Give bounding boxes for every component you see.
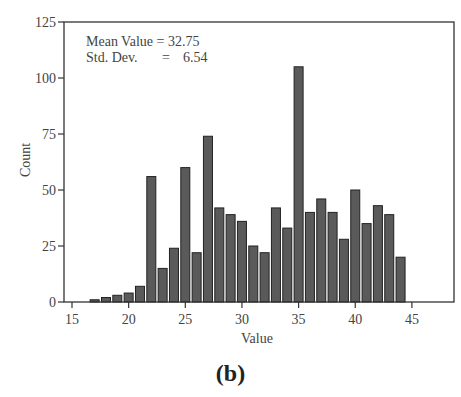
x-tick-label: 45 [405,312,419,327]
figure-caption: (b) [0,360,461,387]
histogram-bar [373,206,382,302]
histogram-bar [147,177,156,302]
y-tick-label: 50 [42,183,56,198]
histogram-bar [135,286,144,302]
std-dev-annotation-label: Std. Dev. [86,50,138,65]
histogram-bar [181,168,190,302]
y-tick-label: 25 [42,239,56,254]
histogram-bar [124,293,133,302]
std-dev-value: 6.54 [183,50,208,65]
x-tick-label: 35 [292,312,306,327]
histogram-bar [385,215,394,302]
histogram-bar [294,67,303,302]
x-tick-label: 25 [178,312,192,327]
y-tick-label: 75 [42,127,56,142]
histogram-bar [339,239,348,302]
histogram-bar [283,228,292,302]
histogram-bar [113,295,122,302]
histogram-chart: 025507510012515202530354045 Mean Value =… [0,0,461,360]
histogram-bar [101,298,110,302]
histogram-bar [249,246,258,302]
y-tick-label: 125 [35,15,56,30]
histogram-bar [192,253,201,302]
histogram-bar [226,215,235,302]
histogram-bar [260,253,269,302]
y-tick-label: 100 [35,71,56,86]
histogram-bar [203,136,212,302]
histogram-bar [351,190,360,302]
histogram-bar [305,212,314,302]
histogram-bar [328,212,337,302]
histogram-bar [396,257,405,302]
x-tick-label: 30 [235,312,249,327]
x-tick-label: 15 [65,312,79,327]
histogram-bar [169,248,178,302]
histogram-bar [215,208,224,302]
x-tick-label: 20 [122,312,136,327]
histogram-bar [158,268,167,302]
histogram-bar [271,208,280,302]
mean-value-annotation: Mean Value = 32.75 [86,34,199,49]
x-tick-label: 40 [348,312,362,327]
histogram-bar [317,199,326,302]
y-tick-label: 0 [49,295,56,310]
bars-group [90,67,405,302]
y-axis-title: Count [18,143,33,177]
std-dev-equals: = [162,50,170,65]
histogram-bar [237,221,246,302]
histogram-bar [362,224,371,302]
x-axis-title: Value [241,331,273,346]
